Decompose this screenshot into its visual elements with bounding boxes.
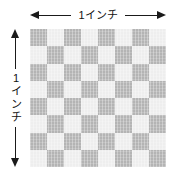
swatch-cell-light [149, 98, 166, 115]
vertical-label-char: 1 [7, 72, 25, 85]
swatch-cell-light [47, 64, 64, 81]
swatch-cell-dark [30, 98, 47, 115]
arrow-right-icon [157, 11, 166, 19]
swatch-cell-dark [30, 64, 47, 81]
swatch-cell-light [115, 29, 132, 46]
swatch-cell-dark [64, 98, 81, 115]
arrow-up-icon [11, 29, 19, 38]
swatch-cell-light [81, 29, 98, 46]
arrow-left-icon [30, 11, 39, 19]
swatch-cell-dark [47, 115, 64, 132]
swatch-cell-light [132, 150, 149, 167]
swatch-cell-light [132, 46, 149, 63]
swatch-cell-dark [81, 150, 98, 167]
swatch-cell-dark [132, 29, 149, 46]
swatch-cell-dark [81, 115, 98, 132]
swatch-cell-light [132, 115, 149, 132]
swatch-cell-dark [115, 150, 132, 167]
vertical-dimension: 1 イ ン チ [7, 29, 25, 167]
swatch-cell-light [149, 133, 166, 150]
swatch-cell-light [64, 150, 81, 167]
vertical-label-char: ン [7, 98, 25, 111]
swatch-cell-dark [30, 133, 47, 150]
swatch-cell-dark [149, 115, 166, 132]
swatch-cell-light [98, 150, 115, 167]
fabric-scale-diagram: 1インチ 1 イ ン チ [0, 0, 170, 173]
swatch-cell-light [64, 115, 81, 132]
swatch-cell-dark [47, 46, 64, 63]
swatch-cell-dark [149, 81, 166, 98]
swatch-cell-dark [64, 133, 81, 150]
swatch-cell-light [64, 46, 81, 63]
fabric-swatch [30, 29, 166, 167]
vertical-label-char: チ [7, 111, 25, 124]
swatch-cell-dark [81, 81, 98, 98]
swatch-cell-light [64, 81, 81, 98]
swatch-cell-light [149, 64, 166, 81]
swatch-cell-light [81, 98, 98, 115]
swatch-cell-dark [47, 150, 64, 167]
swatch-cell-light [149, 29, 166, 46]
swatch-cell-dark [149, 46, 166, 63]
swatch-cell-light [81, 133, 98, 150]
swatch-cell-light [47, 29, 64, 46]
swatch-cell-dark [64, 29, 81, 46]
swatch-cell-dark [98, 133, 115, 150]
swatch-cell-light [81, 64, 98, 81]
swatch-cell-light [132, 81, 149, 98]
arrow-down-icon [11, 158, 19, 167]
vertical-dimension-label: 1 イ ン チ [7, 69, 25, 127]
swatch-cell-dark [81, 46, 98, 63]
swatch-cell-dark [115, 81, 132, 98]
swatch-cell-light [30, 150, 47, 167]
swatch-cell-dark [30, 29, 47, 46]
swatch-cell-light [98, 46, 115, 63]
swatch-cell-light [115, 133, 132, 150]
swatch-cell-dark [149, 150, 166, 167]
swatch-cell-dark [132, 64, 149, 81]
swatch-cell-light [47, 133, 64, 150]
swatch-cell-light [98, 81, 115, 98]
swatch-cell-light [98, 115, 115, 132]
swatch-cell-dark [115, 115, 132, 132]
swatch-cell-light [47, 98, 64, 115]
swatch-cell-dark [64, 64, 81, 81]
swatch-cell-light [115, 64, 132, 81]
swatch-cell-dark [98, 29, 115, 46]
horizontal-dimension: 1インチ [30, 7, 166, 25]
swatch-cell-dark [132, 98, 149, 115]
swatch-cell-light [30, 115, 47, 132]
swatch-cell-light [115, 98, 132, 115]
swatch-cell-light [30, 81, 47, 98]
swatch-cell-dark [98, 64, 115, 81]
vertical-label-char: イ [7, 85, 25, 98]
swatch-cell-dark [98, 98, 115, 115]
horizontal-dimension-label: 1インチ [71, 6, 125, 24]
swatch-cell-dark [115, 46, 132, 63]
swatch-cell-dark [132, 133, 149, 150]
swatch-cell-light [30, 46, 47, 63]
swatch-cell-dark [47, 81, 64, 98]
